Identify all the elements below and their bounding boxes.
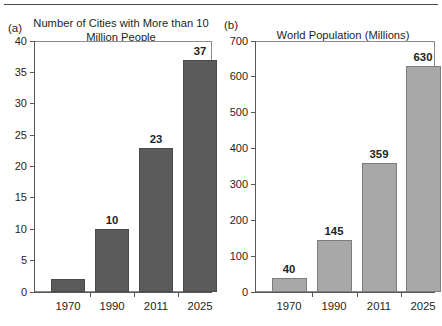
x-tick-label-a-2011: 2011 (132, 300, 180, 312)
y-tick-label-a-5: 5 (2, 255, 27, 266)
y-tick-a-0 (30, 292, 34, 293)
x-axis-b (255, 292, 435, 293)
bar-a-1970 (51, 279, 85, 292)
x-separator-tick-b-2 (401, 293, 402, 297)
x-separator-tick-b-1 (357, 293, 358, 297)
y-tick-a-30 (30, 103, 34, 104)
y-tick-label-a-15: 15 (2, 192, 27, 203)
y-tick-label-a-35: 35 (2, 67, 27, 78)
y-tick-a-20 (30, 166, 34, 167)
y-tick-b-0 (251, 292, 255, 293)
bar-a-2011 (139, 148, 173, 292)
x-separator-tick-a-2 (178, 293, 179, 297)
bar-value-label-a-2025: 37 (178, 45, 222, 57)
y-tick-label-a-40: 40 (2, 36, 27, 47)
y-axis-a (34, 41, 35, 293)
y-tick-label-b-200: 200 (218, 215, 248, 226)
x-axis-a (34, 292, 212, 293)
bar-b-1990 (317, 240, 352, 292)
bar-b-2011 (362, 163, 397, 292)
y-tick-label-b-500: 500 (218, 107, 248, 118)
chart-panel-a: (a) Number of Cities with More than 10 M… (0, 14, 218, 320)
x-tick-label-a-2025: 2025 (176, 300, 224, 312)
y-tick-b-700 (251, 41, 255, 42)
x-tick-label-b-2011: 2011 (355, 300, 403, 312)
x-tick-label-a-1990: 1990 (88, 300, 136, 312)
y-tick-a-25 (30, 135, 34, 136)
bar-b-1970 (272, 278, 307, 292)
y-tick-label-a-20: 20 (2, 161, 27, 172)
y-tick-label-a-30: 30 (2, 98, 27, 109)
bar-value-label-a-1990: 10 (90, 214, 134, 226)
x-tick-label-a-1970: 1970 (44, 300, 92, 312)
bar-value-label-b-1990: 145 (312, 225, 356, 237)
y-tick-b-300 (251, 184, 255, 185)
bar-value-label-b-1970: 40 (267, 263, 311, 275)
y-tick-label-b-0: 0 (218, 287, 248, 298)
y-tick-b-100 (251, 256, 255, 257)
y-tick-a-35 (30, 72, 34, 73)
bar-value-label-b-2011: 359 (357, 148, 401, 160)
y-tick-label-b-700: 700 (218, 36, 248, 47)
x-tick-label-b-2025: 2025 (399, 300, 442, 312)
panel-label-a: (a) (8, 22, 22, 34)
y-axis-b (255, 41, 256, 293)
figure-container: (a) Number of Cities with More than 10 M… (0, 0, 442, 326)
y-tick-b-500 (251, 112, 255, 113)
y-tick-a-40 (30, 41, 34, 42)
y-tick-a-5 (30, 260, 34, 261)
chart-panel-b: (b) World Population (Millions) 01002003… (218, 14, 442, 320)
y-tick-label-b-300: 300 (218, 179, 248, 190)
y-tick-b-600 (251, 76, 255, 77)
bar-value-label-a-2011: 23 (134, 133, 178, 145)
x-separator-tick-a-0 (90, 293, 91, 297)
y-tick-b-200 (251, 220, 255, 221)
y-tick-a-10 (30, 229, 34, 230)
x-separator-tick-b-0 (312, 293, 313, 297)
x-tick-label-b-1990: 1990 (310, 300, 358, 312)
y-tick-label-a-0: 0 (2, 287, 27, 298)
x-tick-label-b-1970: 1970 (265, 300, 313, 312)
panel-label-b: (b) (224, 19, 238, 31)
bar-b-2025 (406, 66, 441, 292)
y-tick-label-a-25: 25 (2, 130, 27, 141)
y-tick-label-b-100: 100 (218, 251, 248, 262)
top-horizontal-rule (4, 4, 438, 5)
y-tick-label-b-400: 400 (218, 143, 248, 154)
y-tick-label-a-10: 10 (2, 224, 27, 235)
bar-a-1990 (95, 229, 129, 292)
y-tick-label-b-600: 600 (218, 71, 248, 82)
y-tick-b-400 (251, 148, 255, 149)
bar-a-2025 (183, 60, 217, 292)
bar-value-label-b-2025: 630 (401, 51, 442, 63)
y-tick-a-15 (30, 197, 34, 198)
x-separator-tick-a-1 (134, 293, 135, 297)
